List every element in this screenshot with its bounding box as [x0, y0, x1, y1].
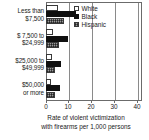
bar-black-7500-to-24999	[46, 36, 68, 42]
category-label-line1: $50,000	[0, 81, 44, 89]
tick-label-20: 20	[81, 103, 101, 111]
legend-item-hispanic: Hispanic	[74, 20, 116, 28]
category-label-less-than-7500: Less than $7,500	[0, 7, 44, 22]
category-label-line2: $49,999	[0, 64, 44, 72]
legend-item-white: White	[74, 4, 116, 12]
legend-item-black: Black	[74, 12, 116, 20]
tick-label-40: 40	[127, 103, 147, 111]
tick-label-30: 30	[104, 103, 124, 111]
legend-label-white: White	[82, 5, 98, 12]
bar-black-25000-to-49999	[46, 61, 61, 67]
bar-white-50000-or-more	[46, 79, 51, 85]
hispanic-hatched-swatch-icon	[74, 22, 79, 27]
category-label-line1: $ 7,500 to	[0, 32, 44, 40]
bar-white-7500-to-24999	[46, 29, 53, 35]
x-axis-title: Rate of violent victimization with firea…	[26, 113, 146, 131]
bar-hispanic-25000-to-49999	[46, 67, 55, 73]
bar-hispanic-7500-to-24999	[46, 42, 59, 48]
x-axis-ticks: 0 10 20 30 40	[46, 101, 142, 111]
legend: White Black Hispanic	[74, 4, 116, 29]
bar-group-7500-to-24999	[46, 27, 142, 52]
category-label-50000-or-more: $50,000 or more	[0, 81, 44, 96]
bar-black-less-than-7500	[46, 11, 76, 17]
x-axis-title-line2: with firearms per 1,000 persons	[26, 122, 146, 131]
category-label-line2: or more	[0, 89, 44, 97]
category-label-25000-to-49999: $25,000 to $49,999	[0, 57, 44, 72]
white-open-swatch-icon	[74, 6, 79, 11]
bar-hispanic-less-than-7500	[46, 18, 64, 24]
category-label-line1: Less than	[0, 7, 44, 15]
bar-group-25000-to-49999	[46, 52, 142, 77]
violent-victimization-firearms-bar-chart: Less than $7,500 $ 7,500 to $24,999 $25,…	[0, 0, 149, 140]
bar-group-50000-or-more	[46, 76, 142, 101]
bar-black-50000-or-more	[46, 85, 60, 91]
category-label-7500-to-24999: $ 7,500 to $24,999	[0, 32, 44, 47]
bar-white-less-than-7500	[46, 5, 58, 11]
bar-hispanic-50000-or-more	[46, 92, 55, 98]
legend-label-hispanic: Hispanic	[82, 21, 107, 28]
category-label-line1: $25,000 to	[0, 57, 44, 65]
x-axis-title-line1: Rate of violent victimization	[26, 113, 146, 122]
category-label-line2: $7,500	[0, 15, 44, 23]
category-axis-labels: Less than $7,500 $ 7,500 to $24,999 $25,…	[0, 2, 44, 101]
bar-white-25000-to-49999	[46, 54, 52, 60]
legend-label-black: Black	[82, 13, 98, 20]
black-solid-swatch-icon	[74, 14, 79, 19]
tick-label-10: 10	[58, 103, 78, 111]
category-label-line2: $24,999	[0, 39, 44, 47]
tick-label-0: 0	[36, 103, 56, 111]
